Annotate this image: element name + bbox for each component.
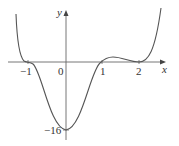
tick-label-neg16: −16 — [44, 125, 61, 136]
y-axis-label: y — [57, 7, 62, 18]
tick-label-2: 2 — [136, 66, 142, 77]
x-axis-label: x — [162, 64, 167, 75]
tick-label-0: 0 — [58, 66, 64, 77]
tick-label-1: 1 — [100, 66, 106, 77]
y-axis-arrow-icon — [64, 10, 69, 16]
tick-label-neg1: −1 — [20, 66, 32, 77]
